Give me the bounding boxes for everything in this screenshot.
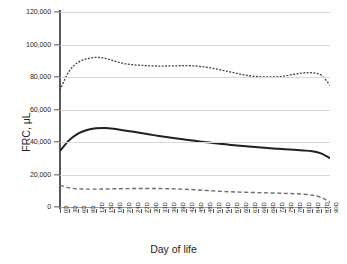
gridline (60, 175, 330, 176)
x-tick-mark (186, 209, 187, 213)
x-tick-mark (150, 209, 151, 213)
x-tick-mark (105, 209, 106, 213)
plot-area (60, 12, 330, 207)
y-tick-label: 40,000 (30, 138, 51, 146)
y-tick-label: 80,000 (30, 73, 51, 81)
gridline (60, 110, 330, 111)
series-middle-solid-curve (60, 128, 330, 158)
x-tick-mark (168, 209, 169, 213)
x-tick-mark (330, 209, 331, 213)
y-tick-label: 100,000 (26, 41, 51, 49)
x-tick-mark (222, 209, 223, 213)
gridline (60, 12, 330, 13)
x-tick-mark (141, 209, 142, 213)
gridline (60, 45, 330, 46)
x-tick-mark (312, 209, 313, 213)
x-tick-mark (231, 209, 232, 213)
x-tick-mark (114, 209, 115, 213)
x-tick-mark (87, 209, 88, 213)
x-tick-mark (276, 209, 277, 213)
x-axis-tick-labels: 0D3D6D9D12D15D18D21D24D27D30D33D36D39D42… (60, 209, 332, 243)
x-tick-mark (204, 209, 205, 213)
x-tick-mark (240, 209, 241, 213)
y-axis-title: FRC, μL (20, 112, 32, 151)
x-tick-mark (213, 209, 214, 213)
x-tick-mark (96, 209, 97, 213)
x-tick-mark (285, 209, 286, 213)
series-lower-dashed-curve (60, 185, 330, 202)
chart-figure: 020,00040,00060,00080,000100,000120,000 … (0, 0, 347, 264)
x-tick-mark (60, 209, 61, 213)
x-tick-mark (294, 209, 295, 213)
x-tick-mark (69, 209, 70, 213)
series-upper-dotted-curve (60, 57, 330, 90)
x-tick-mark (321, 209, 322, 213)
y-tick-label: 120,000 (26, 8, 51, 16)
x-tick-label-text: 90D (332, 202, 339, 213)
figure-caption (0, 258, 347, 264)
gridline (60, 77, 330, 78)
x-tick-mark (177, 209, 178, 213)
y-tick-label: 0 (47, 203, 51, 211)
x-tick-mark (132, 209, 133, 213)
x-tick-mark (303, 209, 304, 213)
x-tick-mark (267, 209, 268, 213)
x-axis-title: Day of life (0, 243, 347, 255)
x-tick-mark (258, 209, 259, 213)
x-tick-mark (195, 209, 196, 213)
x-tick-mark (159, 209, 160, 213)
gridline (60, 142, 330, 143)
y-tick-label: 60,000 (30, 106, 51, 114)
x-tick-mark (249, 209, 250, 213)
x-tick-mark (123, 209, 124, 213)
y-tick-label: 20,000 (30, 171, 51, 179)
x-tick-mark (78, 209, 79, 213)
